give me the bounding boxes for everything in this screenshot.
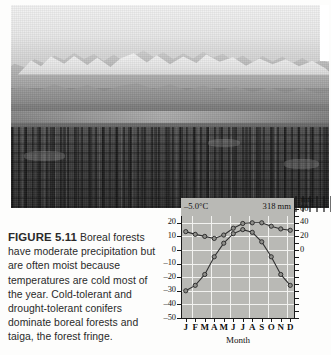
left-axis-tick <box>177 318 181 319</box>
precipitation-marker <box>231 226 235 230</box>
right-axis-tick <box>295 250 299 251</box>
month-tick <box>252 318 253 322</box>
forest-clearing-1 <box>24 151 65 161</box>
left-axis-tick-label: –50 <box>163 313 176 322</box>
precipitation-marker <box>184 230 188 234</box>
temperature-marker <box>288 283 292 287</box>
month-label: J <box>231 322 236 332</box>
temperature-marker <box>269 255 273 259</box>
x-axis-title: Month <box>181 335 295 345</box>
left-axis-tick <box>177 291 181 292</box>
precipitation-marker <box>193 232 197 236</box>
precipitation-marker <box>260 221 264 225</box>
precipitation-marker <box>241 221 245 225</box>
left-axis-tick <box>177 223 181 224</box>
series-plot <box>181 216 295 318</box>
forest-clearing-3 <box>284 159 319 169</box>
month-label: O <box>268 322 275 332</box>
precipitation-marker <box>279 227 283 231</box>
month-label: F <box>193 322 199 332</box>
month-tick <box>233 318 234 322</box>
boreal-forest-photograph <box>11 5 329 208</box>
photo-over-chart-overlap <box>155 196 331 212</box>
precipitation-marker <box>269 224 273 228</box>
month-tick <box>290 318 291 322</box>
left-axis-tick <box>177 264 181 265</box>
month-tick <box>205 318 206 322</box>
figure-caption-text: Boreal forests have moderate precipitati… <box>8 232 155 342</box>
temperature-marker <box>241 228 245 232</box>
month-tick <box>195 318 196 322</box>
left-axis-tick-label: 10 <box>168 231 176 240</box>
right-axis-tick <box>295 223 299 224</box>
right-axis-tick <box>295 284 299 285</box>
temperature-marker <box>279 272 283 276</box>
climograph: –5.0°C 318 mm mm JFMAMJJASOND Month 2010… <box>155 196 331 355</box>
right-axis-tick <box>295 318 299 319</box>
temperature-marker <box>193 283 197 287</box>
right-axis-tick <box>295 291 299 292</box>
temperature-marker <box>222 241 226 245</box>
photo-overlap-swatch <box>295 196 331 212</box>
temperature-marker <box>184 289 188 293</box>
right-axis-tick <box>295 298 299 299</box>
month-label: M <box>220 322 229 332</box>
precipitation-marker <box>222 233 226 237</box>
right-axis-tick <box>295 236 299 237</box>
month-label: J <box>184 322 189 332</box>
month-tick <box>243 318 244 322</box>
month-label: S <box>259 322 264 332</box>
figure-container: FIGURE 5.11 Boreal forests have moderate… <box>0 0 331 355</box>
precipitation-line <box>186 223 291 239</box>
temperature-line <box>186 230 291 291</box>
month-label: A <box>211 322 218 332</box>
month-tick <box>262 318 263 322</box>
month-label: D <box>287 322 294 332</box>
figure-caption: FIGURE 5.11 Boreal forests have moderate… <box>8 230 158 345</box>
month-tick <box>224 318 225 322</box>
right-axis-tick <box>295 270 299 271</box>
left-axis-tick-label: –20 <box>163 272 176 281</box>
month-tick <box>186 318 187 322</box>
forest-clearing-2 <box>208 139 240 147</box>
left-axis-tick-label: 20 <box>168 217 176 226</box>
photo-corner-notch <box>320 5 329 61</box>
right-axis-tick-label: 0 <box>300 245 304 254</box>
month-label: M <box>201 322 210 332</box>
precipitation-marker <box>288 228 292 232</box>
left-axis-tick-label: –30 <box>163 285 176 294</box>
right-axis-tick <box>295 243 299 244</box>
left-axis-tick-label: –40 <box>163 299 176 308</box>
figure-number: FIGURE 5.11 <box>8 231 77 243</box>
temperature-marker <box>260 240 264 244</box>
month-tick-labels: JFMAMJJASOND <box>181 322 295 335</box>
right-axis-tick-label: 40 <box>300 217 308 226</box>
left-axis-tick-label: 0 <box>172 245 176 254</box>
temperature-marker <box>231 232 235 236</box>
right-axis-tick <box>295 216 299 217</box>
right-axis-tick <box>295 264 299 265</box>
temperature-marker <box>203 272 207 276</box>
month-tick <box>214 318 215 322</box>
left-axis-tick <box>177 236 181 237</box>
precipitation-marker <box>250 221 254 225</box>
right-axis-tick <box>295 311 299 312</box>
precipitation-marker <box>212 236 216 240</box>
month-label: N <box>278 322 285 332</box>
right-axis-tick <box>295 304 299 305</box>
left-axis-tick <box>177 250 181 251</box>
valley-haze <box>11 111 329 123</box>
precipitation-marker <box>203 234 207 238</box>
right-axis-tick-label: 20 <box>300 231 308 240</box>
right-axis-tick <box>295 277 299 278</box>
month-label: J <box>241 322 246 332</box>
month-label: A <box>249 322 256 332</box>
temperature-marker <box>250 230 254 234</box>
left-axis-tick <box>177 277 181 278</box>
right-axis-tick <box>295 230 299 231</box>
right-axis-tick <box>295 257 299 258</box>
month-tick <box>271 318 272 322</box>
month-tick <box>281 318 282 322</box>
left-axis-tick-label: –10 <box>163 258 176 267</box>
bottom-axis-line <box>181 318 295 319</box>
